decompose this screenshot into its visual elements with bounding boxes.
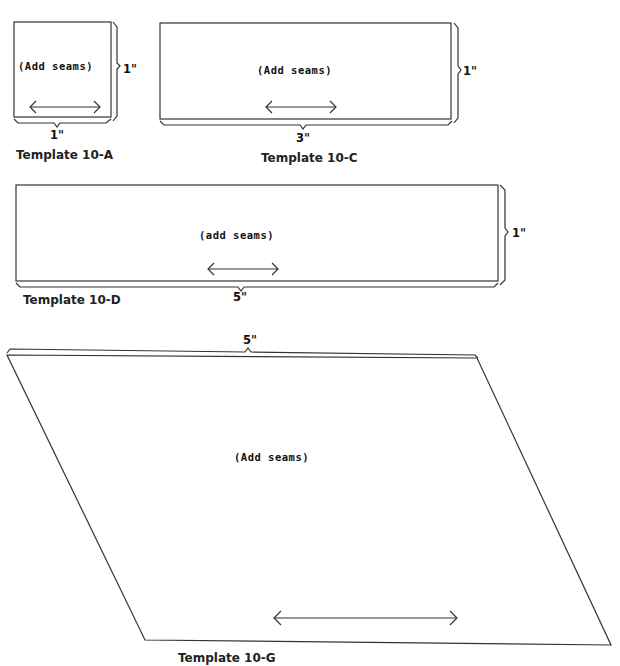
template-10d-height-label: 1" [512, 226, 526, 240]
template-10a-width-brace [14, 119, 111, 127]
template-10c-width-brace [160, 121, 452, 129]
template-10a-grain-arrow-icon [30, 101, 100, 113]
template-10c-seam-note: (Add seams) [257, 64, 332, 76]
template-10d-width-label: 5" [233, 290, 247, 304]
template-10g-shape [7, 355, 611, 645]
templates-diagram [0, 0, 620, 666]
template-10d-height-brace [500, 185, 508, 285]
template-10a-height-label: 1" [123, 62, 137, 76]
template-10g-grain-arrow-icon [274, 611, 457, 625]
template-10c-height-label: 1" [463, 64, 477, 78]
template-10d-title: Template 10-D [23, 293, 121, 307]
template-10a-seam-note: (Add seams) [18, 60, 93, 72]
template-10d-seam-note: (add seams) [199, 229, 274, 241]
template-10a-title: Template 10-A [16, 148, 113, 162]
template-10a-height-brace [113, 22, 120, 121]
template-10a-width-label: 1" [50, 128, 64, 142]
template-10g-width-label: 5" [243, 333, 257, 347]
template-10c-height-brace [454, 23, 461, 123]
template-10d-width-brace [16, 283, 498, 291]
template-10c-grain-arrow-icon [266, 101, 336, 113]
template-10d-grain-arrow-icon [208, 263, 278, 275]
template-10g-title: Template 10-G [178, 651, 276, 665]
template-10c-width-label: 3" [296, 131, 310, 145]
template-10g-seam-note: (Add seams) [234, 451, 309, 463]
template-10c-title: Template 10-C [261, 151, 358, 165]
